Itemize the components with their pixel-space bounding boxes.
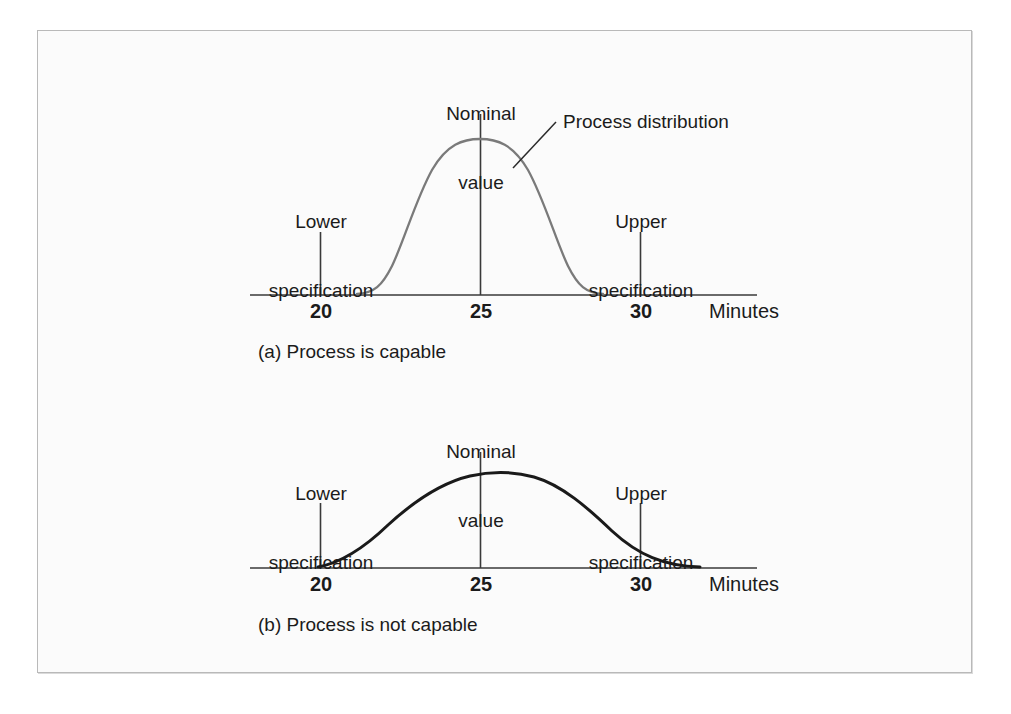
panel-b-xtick-25: 25 bbox=[470, 573, 492, 596]
panel-b-upper-spec-label-line1: Upper bbox=[589, 482, 694, 505]
panel-b-xtick-20: 20 bbox=[310, 573, 332, 596]
panel-b-nominal-label: Nominal value bbox=[446, 394, 516, 578]
panel-a-callout-label: Process distribution bbox=[563, 110, 729, 133]
panel-a-axis-title: Minutes bbox=[709, 300, 779, 323]
panel-b-lower-spec-label-line2: specification bbox=[269, 551, 374, 574]
panel-a-caption: (a) Process is capable bbox=[258, 340, 446, 363]
panel-a-lower-spec-label-line2: specification bbox=[269, 279, 374, 302]
panel-a-nominal-label: Nominal value bbox=[446, 56, 516, 240]
panel-a-xtick-20: 20 bbox=[310, 300, 332, 323]
panel-a-lower-spec-label-line1: Lower bbox=[269, 210, 374, 233]
panel-b-nominal-label-line1: Nominal bbox=[446, 440, 516, 463]
panel-a-upper-spec-label-line2: specification bbox=[589, 279, 694, 302]
panel-b-nominal-label-line2: value bbox=[446, 509, 516, 532]
panel-a-xtick-25: 25 bbox=[470, 300, 492, 323]
panel-b-caption: (b) Process is not capable bbox=[258, 613, 478, 636]
panel-a-nominal-label-line2: value bbox=[446, 171, 516, 194]
figure-root: Nominal value Lower specification Upper … bbox=[0, 0, 1011, 714]
panel-b-lower-spec-label-line1: Lower bbox=[269, 482, 374, 505]
panel-a-upper-spec-label-line1: Upper bbox=[589, 210, 694, 233]
panel-b-upper-spec-label-line2: specification bbox=[589, 551, 694, 574]
panel-a-callout-leader-line bbox=[513, 122, 556, 168]
panel-a-xtick-30: 30 bbox=[630, 300, 652, 323]
panel-b-axis-title: Minutes bbox=[709, 573, 779, 596]
panel-b-xtick-30: 30 bbox=[630, 573, 652, 596]
panel-a-nominal-label-line1: Nominal bbox=[446, 102, 516, 125]
